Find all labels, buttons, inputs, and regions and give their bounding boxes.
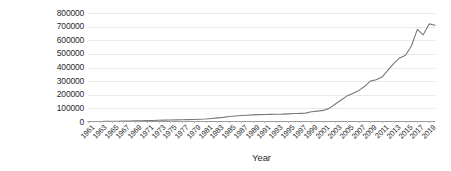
x-axis-tick-labels: 1961196319651967196919711973197519771979…	[88, 123, 435, 153]
y-axis-tick-label: 800000	[24, 9, 84, 18]
production-line-chart: Production (in tonnes) 01000002000003000…	[0, 0, 451, 171]
x-axis-title: Year	[88, 152, 435, 163]
y-axis-tick-label: 0	[24, 118, 84, 127]
y-axis-tick-label: 400000	[24, 63, 84, 72]
y-axis-tick-label: 200000	[24, 90, 84, 99]
plot-area	[88, 13, 435, 122]
y-axis-tick-labels: 0100000200000300000400000500000600000700…	[24, 0, 84, 171]
series-production	[88, 13, 435, 122]
y-axis-tick-label: 300000	[24, 77, 84, 86]
y-axis-tick-label: 700000	[24, 22, 84, 31]
y-axis-tick-label: 600000	[24, 36, 84, 45]
y-axis-tick-label: 500000	[24, 49, 84, 58]
y-axis-tick-label: 100000	[24, 104, 84, 113]
